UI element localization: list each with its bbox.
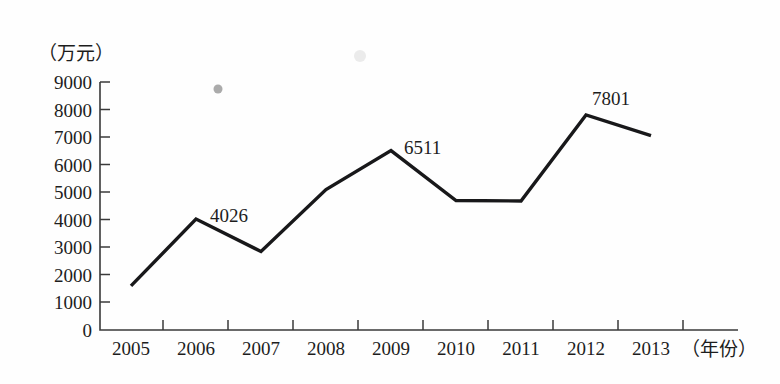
x-axis-unit-label: （年份）: [681, 339, 757, 360]
x-tick-marks: [163, 320, 683, 330]
line-chart-figure: （万元） 9000 8000 7000 6000 50: [0, 0, 780, 384]
x-tick-labels: 2005 2006 2007 2008 2009 2010 2011 2012 …: [112, 338, 670, 359]
y-tick-label: 7000: [54, 127, 92, 148]
x-tick-label: 2007: [242, 338, 280, 359]
scan-speck-icon: [214, 85, 223, 94]
y-tick-label: 3000: [54, 237, 92, 258]
y-tick-marks: [100, 82, 110, 302]
scanned-chart-page: （万元） 9000 8000 7000 6000 50: [0, 0, 780, 384]
x-tick-label: 2011: [502, 338, 539, 359]
y-tick-label: 0: [83, 320, 93, 341]
x-tick-label: 2013: [632, 338, 670, 359]
data-point-label-2012: 7801: [592, 88, 630, 109]
data-point-label-2009: 6511: [404, 137, 441, 158]
chart-canvas: （万元） 9000 8000 7000 6000 50: [0, 0, 780, 384]
scan-smudge-icon: [354, 50, 366, 62]
x-tick-label: 2006: [177, 338, 215, 359]
y-axis-unit-label: （万元）: [38, 43, 114, 64]
y-tick-label: 8000: [54, 100, 92, 121]
y-tick-labels: 9000 8000 7000 6000 5000 4000 3000 2000 …: [54, 72, 92, 341]
axis-lines: [100, 82, 738, 330]
x-tick-label: 2008: [307, 338, 345, 359]
y-tick-label: 2000: [54, 265, 92, 286]
y-tick-label: 1000: [54, 292, 92, 313]
y-tick-label: 4000: [54, 210, 92, 231]
y-tick-label: 5000: [54, 182, 92, 203]
x-tick-label: 2012: [567, 338, 605, 359]
data-point-label-2006: 4026: [210, 205, 248, 226]
y-tick-label: 6000: [54, 155, 92, 176]
y-tick-label: 9000: [54, 72, 92, 93]
x-tick-label: 2010: [437, 338, 475, 359]
data-series-line: [131, 115, 651, 286]
x-tick-label: 2009: [372, 338, 410, 359]
x-tick-label: 2005: [112, 338, 150, 359]
